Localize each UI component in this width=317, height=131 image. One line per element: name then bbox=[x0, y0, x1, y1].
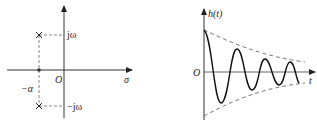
impulse-response-plot: h(t) t O bbox=[193, 8, 315, 120]
figure: jω −jω O σ −α h(t) t O bbox=[0, 0, 317, 131]
label-j-omega: jω bbox=[66, 29, 77, 40]
response-curve bbox=[204, 30, 299, 103]
label-origin: O bbox=[55, 74, 62, 85]
label-t: t bbox=[309, 75, 312, 86]
upper-envelope bbox=[204, 30, 305, 62]
real-part-dot bbox=[37, 68, 41, 72]
label-sigma: σ bbox=[124, 74, 130, 85]
label-neg-j-omega: −jω bbox=[67, 101, 82, 112]
label-h-t: h(t) bbox=[208, 8, 223, 20]
label-neg-alpha: −α bbox=[21, 83, 34, 94]
label-origin-right: O bbox=[193, 67, 200, 78]
s-plane-diagram: jω −jω O σ −α bbox=[7, 6, 132, 118]
